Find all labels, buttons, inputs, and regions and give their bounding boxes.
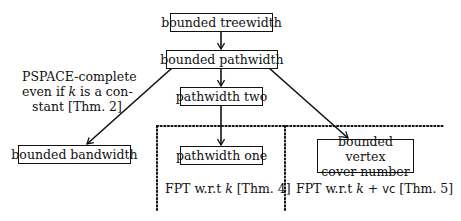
math-var-k: k xyxy=(356,181,364,196)
annotation-line: stant [Thm. 2] xyxy=(22,99,132,114)
text: [Thm. 4] xyxy=(233,181,291,196)
node-pathwidth-two: pathwidth two xyxy=(180,87,263,106)
annotation-line: PSPACE-complete xyxy=(22,69,132,84)
node-bounded-bandwidth: bounded bandwidth xyxy=(18,145,131,164)
math-var-k: k xyxy=(225,181,233,196)
node-label: bounded pathwidth xyxy=(160,53,283,67)
node-bounded-vertex-cover: bounded vertex cover number xyxy=(317,139,414,173)
node-label: pathwidth one xyxy=(176,149,267,163)
text: FPT w.r.t xyxy=(296,181,356,196)
node-label: pathwidth two xyxy=(176,90,268,104)
annotation-fpt-k-vc: FPT w.r.t k + vc [Thm. 5] xyxy=(296,181,436,197)
math-vc: vc xyxy=(382,182,395,196)
node-bounded-pathwidth: bounded pathwidth xyxy=(166,50,278,69)
plus-sign: + xyxy=(364,181,382,196)
node-label-line2: cover number xyxy=(321,164,409,179)
node-label-line1: bounded vertex xyxy=(318,134,413,164)
node-label: bounded treewidth xyxy=(161,16,282,30)
annotation-line: even if k is a con- xyxy=(22,84,132,99)
edge-pathwidth-vertex-cover xyxy=(269,68,348,138)
annotation-pspace-complete: PSPACE-complete even if k is a con- stan… xyxy=(22,69,132,114)
text: [Thm. 5] xyxy=(395,181,453,196)
text: even if xyxy=(22,84,68,99)
node-bounded-treewidth: bounded treewidth xyxy=(170,13,273,32)
node-label: bounded bandwidth xyxy=(11,148,137,162)
annotation-fpt-k: FPT w.r.t k [Thm. 4] xyxy=(165,181,279,196)
math-var-k: k xyxy=(68,84,76,99)
text: is a con- xyxy=(76,84,133,99)
text: FPT w.r.t xyxy=(165,181,225,196)
node-pathwidth-one: pathwidth one xyxy=(180,146,263,165)
